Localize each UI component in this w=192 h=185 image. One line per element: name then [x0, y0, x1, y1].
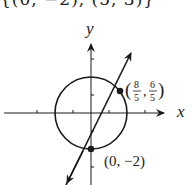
svg-text:5: 5: [134, 92, 139, 103]
y-axis-label: y: [84, 19, 94, 38]
svg-text:8: 8: [134, 79, 139, 90]
point-label-1: ( 8 5 , 6 5 ): [125, 79, 164, 103]
point-label-2: (0, −2): [104, 153, 145, 170]
svg-text:): ): [158, 79, 164, 101]
graph: x y ( 8 5 , 6 5 ) (0, −2): [0, 0, 192, 185]
intersection-point-2: [88, 146, 95, 153]
svg-text:6: 6: [150, 79, 155, 90]
line-arrow-down: [67, 151, 83, 183]
svg-text:(: (: [125, 79, 131, 101]
x-axis-label: x: [176, 102, 185, 121]
svg-text:,: ,: [143, 84, 147, 99]
intersection-point-1: [117, 88, 124, 95]
svg-text:5: 5: [150, 92, 155, 103]
